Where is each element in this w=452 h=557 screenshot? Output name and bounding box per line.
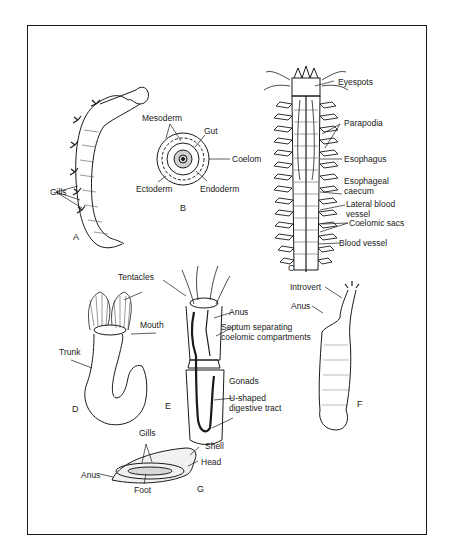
label-a-gills: Gills xyxy=(50,187,67,197)
polychaete-c-illustration xyxy=(264,66,348,272)
panel-label-g: G xyxy=(197,484,204,494)
label-d-mouth: Mouth xyxy=(140,320,164,330)
label-b-ectoderm: Ectoderm xyxy=(136,184,172,194)
label-e-gonads: Gonads xyxy=(229,376,259,386)
label-e-ushaped-line1: U-shaped xyxy=(229,393,266,403)
mollusc-g-illustration xyxy=(100,444,199,484)
worm-f-illustration xyxy=(312,281,359,430)
label-c-coelomic-sacs: Coelomic sacs xyxy=(349,218,404,228)
label-c-parapodia: Parapodia xyxy=(344,118,383,128)
figure-artwork xyxy=(0,0,452,557)
panel-label-c: C xyxy=(288,263,295,273)
label-e-ushaped-line2: digestive tract xyxy=(229,403,281,413)
label-b-mesoderm: Mesoderm xyxy=(142,113,182,123)
label-g-gills: Gills xyxy=(139,428,156,438)
label-e-septum-line2: coelomic compartments xyxy=(221,332,311,342)
label-g-foot: Foot xyxy=(134,485,151,495)
panel-label-f: F xyxy=(357,399,363,409)
cross-section-b-illustration xyxy=(157,124,230,185)
label-c-lateral-line1: Lateral blood xyxy=(346,199,395,209)
worm-d-illustration xyxy=(71,292,156,425)
label-c-eyespots: Eyespots xyxy=(338,77,373,87)
label-e-anus: Anus xyxy=(229,307,248,317)
label-g-head: Head xyxy=(201,457,221,467)
panel-label-b: B xyxy=(180,203,186,213)
panel-label-e: E xyxy=(165,401,171,411)
label-d-trunk: Trunk xyxy=(59,347,80,357)
label-b-endoderm: Endoderm xyxy=(200,184,239,194)
label-c-esophageal-line1: Esophageal xyxy=(344,176,389,186)
label-b-coelom: Coelom xyxy=(232,154,261,164)
label-g-shell: Shell xyxy=(205,441,224,451)
worm-e-illustration xyxy=(163,266,233,445)
label-g-anus: Anus xyxy=(81,470,100,480)
label-c-esophageal-line2: caecum xyxy=(344,186,374,196)
label-e-septum-line1: Septum separating xyxy=(221,322,292,332)
label-c-blood-vessel: Blood vessel xyxy=(339,238,387,248)
label-f-anus: Anus xyxy=(291,301,310,311)
worm-a-illustration xyxy=(56,87,149,248)
panel-label-d: D xyxy=(72,404,79,414)
panel-label-a: A xyxy=(73,232,79,242)
label-b-gut: Gut xyxy=(204,126,218,136)
label-c-esophagus: Esophagus xyxy=(344,154,387,164)
label-f-introvert: Introvert xyxy=(290,282,321,292)
label-d-tentacles: Tentacles xyxy=(118,272,154,282)
